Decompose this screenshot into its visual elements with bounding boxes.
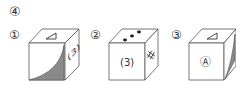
option-2: ② (3) bbox=[90, 28, 158, 80]
option-3: ③ Ⓐ bbox=[171, 28, 236, 80]
cube-3 bbox=[189, 29, 236, 80]
option-1: ① (3) bbox=[9, 28, 81, 80]
cube-options-diagram: ④ ① (3) ② (3) bbox=[0, 0, 236, 85]
option-3-label: ③ bbox=[171, 28, 182, 42]
cube-2-front-text: (3) bbox=[120, 57, 134, 68]
problem-number: ④ bbox=[9, 4, 21, 19]
option-2-label: ② bbox=[90, 28, 101, 42]
cube-3-front-text: Ⓐ bbox=[200, 56, 211, 69]
option-1-label: ① bbox=[9, 28, 20, 42]
